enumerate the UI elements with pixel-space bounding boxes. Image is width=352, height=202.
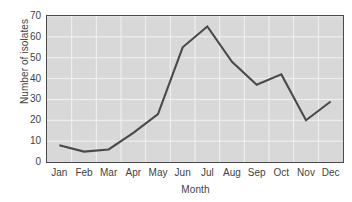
x-axis-label: Month <box>47 184 344 195</box>
x-tick-label: Dec <box>311 167 351 178</box>
x-axis-tick-labels: JanFebMarAprMayJunJulAugSepOctNovDec <box>0 0 352 202</box>
line-chart-figure: Number of isolates 010203040506070 JanFe… <box>0 0 352 202</box>
